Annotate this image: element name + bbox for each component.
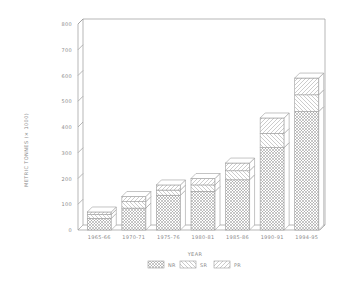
bar-segment-nr [122, 208, 146, 230]
stacked-bar-chart: 0100200300400500600700800 1965-661970-71… [0, 0, 340, 285]
bar-top-face [122, 192, 151, 197]
bar-segment-sr [156, 190, 180, 195]
bar-segment-nr [156, 195, 180, 230]
bar-segment-pr [156, 185, 180, 190]
x-tick-label: 1980-81 [192, 234, 215, 240]
legend-item-pr: PR [214, 261, 241, 268]
y-tick [78, 122, 83, 127]
bar-1990-91: 1990-91 [260, 113, 289, 240]
x-tick-label: 1970-71 [122, 234, 145, 240]
y-tick-label: 600 [62, 73, 72, 79]
bar-segment-nr [191, 191, 215, 230]
y-tick [78, 71, 83, 76]
bar-top-face [226, 158, 255, 163]
y-tick-label: 400 [62, 124, 72, 130]
bar-segment-pr [226, 163, 250, 171]
bar-top-face [260, 113, 289, 118]
bar-segment-sr [122, 202, 146, 208]
bar-segment-pr [191, 179, 215, 185]
x-tick-label: 1965-66 [88, 234, 111, 240]
x-axis-label: YEAR [187, 251, 203, 257]
legend-swatch [214, 261, 230, 268]
bar-1994-95: 1994-95 [295, 73, 324, 240]
bar-segment-sr [191, 185, 215, 191]
y-tick-label: 700 [62, 47, 72, 53]
legend-item-sr: SR [180, 261, 207, 268]
x-tick-label: 1994-95 [295, 234, 318, 240]
bar-1975-76: 1975-76 [156, 180, 185, 240]
y-tick-label: 0 [69, 227, 72, 233]
bar-1970-71: 1970-71 [122, 192, 151, 240]
y-tick-label: 300 [62, 150, 72, 156]
y-tick [78, 174, 83, 179]
bar-segment-pr [122, 197, 146, 202]
bar-1965-66: 1965-66 [87, 207, 116, 240]
bar-segment-sr [226, 171, 250, 180]
legend-label: NR [168, 262, 176, 268]
bar-top-face [156, 180, 185, 185]
bar-segment-sr [295, 95, 319, 112]
bar-segment-pr [87, 212, 111, 215]
bar-top-face [87, 207, 116, 212]
bar-top-face [295, 73, 324, 78]
y-axis-label: METRIC TONNES (× 1000) [23, 113, 29, 187]
legend-label: PR [234, 262, 241, 268]
x-tick-label: 1975-76 [157, 234, 180, 240]
legend-label: SR [200, 262, 207, 268]
bar-top-face [191, 174, 220, 179]
bar-segment-pr [260, 118, 284, 133]
bar-segment-nr [87, 218, 111, 230]
bar-segment-pr [295, 78, 319, 95]
y-tick-label: 800 [62, 21, 72, 27]
x-tick-label: 1985-86 [226, 234, 249, 240]
legend: NRSRPR [148, 261, 241, 268]
legend-swatch [148, 261, 164, 268]
y-tick-label: 100 [62, 201, 72, 207]
y-tick-label: 200 [62, 176, 72, 182]
bar-1985-86: 1985-86 [226, 158, 255, 240]
bar-segment-nr [226, 180, 250, 230]
y-tick [78, 225, 83, 230]
y-tick [78, 148, 83, 153]
legend-swatch [180, 261, 196, 268]
legend-item-nr: NR [148, 261, 176, 268]
bar-segment-sr [87, 215, 111, 219]
y-tick [78, 19, 83, 24]
y-tick [78, 96, 83, 101]
y-tick [78, 45, 83, 50]
x-tick-label: 1990-91 [261, 234, 284, 240]
bar-segment-nr [260, 148, 284, 230]
y-tick [78, 199, 83, 204]
bars-group: 1965-661970-711975-761980-811985-861990-… [87, 73, 323, 240]
bar-segment-sr [260, 133, 284, 147]
y-tick-label: 500 [62, 98, 72, 104]
bar-segment-nr [295, 112, 319, 230]
